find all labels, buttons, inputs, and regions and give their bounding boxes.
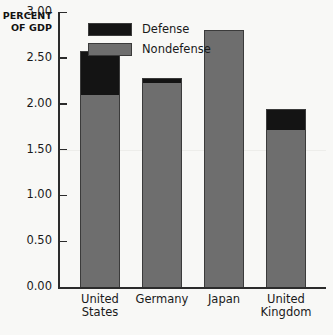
- y-axis-tick-labels: 3.002.502.001.501.000.500.00: [0, 12, 52, 289]
- legend-swatch-icon: [88, 43, 132, 56]
- x-category-label: Japan: [192, 293, 256, 306]
- legend-item: Defense: [88, 20, 211, 38]
- x-axis-line: [58, 287, 326, 289]
- y-tick-mark: [60, 12, 67, 14]
- chart-legend: DefenseNondefense: [88, 20, 211, 60]
- x-category-label: United States: [68, 293, 132, 319]
- x-category-label: United Kingdom: [254, 293, 318, 319]
- bar-united-kingdom: [266, 12, 306, 287]
- bar-segment-nondefense: [142, 83, 182, 287]
- y-tick-mark: [60, 103, 67, 105]
- y-axis-line: [58, 12, 60, 289]
- y-tick-label: 3.00: [6, 4, 52, 18]
- y-tick-label: 0.50: [6, 233, 52, 247]
- bar-segment-nondefense: [266, 130, 306, 287]
- legend-swatch-icon: [88, 23, 132, 36]
- y-tick-label: 2.00: [6, 96, 52, 110]
- y-tick-label: 1.50: [6, 142, 52, 156]
- x-category-label: Germany: [130, 293, 194, 306]
- bar-segment-defense: [142, 78, 182, 83]
- bar-segment-nondefense: [204, 30, 244, 287]
- chart-figure: PERCENT OF GDP 3.002.502.001.501.000.500…: [0, 0, 333, 335]
- y-tick-label: 2.50: [6, 50, 52, 64]
- bar-segment-nondefense: [80, 95, 120, 288]
- y-tick-label: 1.00: [6, 187, 52, 201]
- y-tick-mark: [60, 57, 67, 59]
- y-tick-mark: [60, 195, 67, 197]
- legend-label: Defense: [142, 22, 189, 36]
- y-tick-label: 0.00: [6, 279, 52, 293]
- bar-segment-defense: [266, 109, 306, 130]
- y-tick-mark: [60, 241, 67, 243]
- legend-label: Nondefense: [142, 42, 211, 56]
- legend-item: Nondefense: [88, 40, 211, 58]
